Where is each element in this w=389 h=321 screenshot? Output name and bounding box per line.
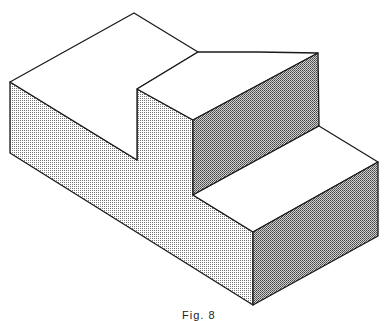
figure-caption: Fig. 8: [182, 309, 216, 321]
